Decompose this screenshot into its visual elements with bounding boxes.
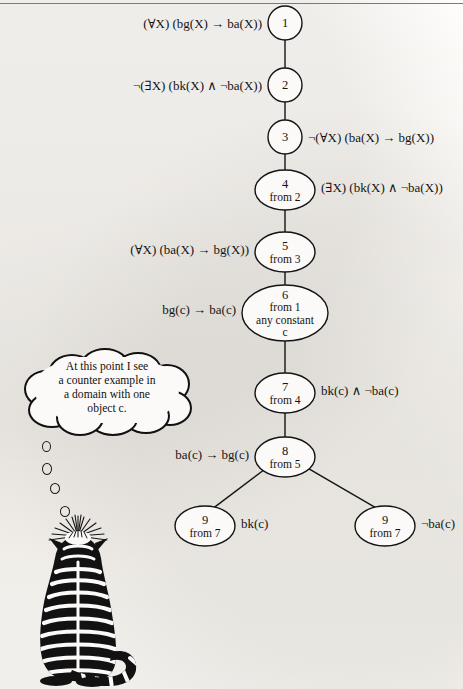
node-justification: from 7 [370, 527, 401, 539]
formula-label-n6: bg(c) → ba(c) [162, 302, 236, 317]
tree-node-2: 2 [268, 68, 302, 102]
tree-node-7: 7from 4 [255, 373, 315, 413]
thought-trail-dot [42, 463, 52, 475]
node-justification: from 2 [270, 191, 301, 203]
formula-label-n7: bk(c) ∧ ¬ba(c) [321, 383, 398, 398]
formula-label-n9a: bk(c) [241, 516, 268, 531]
node-number: 2 [282, 78, 288, 92]
bubble-line: a domain with one [64, 388, 150, 402]
thought-trail-dot [42, 441, 51, 452]
cat-illustration [16, 512, 141, 687]
formula-label-n8: ba(c) → bg(c) [175, 447, 249, 462]
node-number: 6 [282, 288, 288, 302]
node-number: 8 [282, 444, 288, 458]
tree-node-4: 4from 2 [255, 170, 315, 210]
node-number: 4 [282, 177, 289, 191]
formula-label-n2: ¬(∃X) (bk(X) ∧ ¬ba(X)) [133, 78, 262, 93]
node-justification: from 5 [270, 458, 301, 470]
tree-edge [214, 466, 269, 508]
figure-page: 1234from 25from 36from 1any constantc7fr… [0, 0, 463, 689]
tree-node-1: 1 [268, 6, 302, 40]
formula-label-n4: (∃X) (bk(X) ∧ ¬ba(X)) [321, 180, 443, 195]
formula-label-n1: (∀X) (bg(X) → ba(X)) [143, 16, 262, 31]
node-justification: from 7 [190, 527, 221, 539]
formula-label-n3: ¬(∀X) (ba(X) → bg(X)) [308, 130, 434, 145]
tree-edge [302, 465, 376, 508]
tree-node-8: 8from 5 [255, 437, 315, 477]
tree-node-6: 6from 1any constantc [242, 285, 328, 341]
node-number: 1 [282, 16, 288, 30]
node-number: 5 [282, 239, 288, 253]
thought-trail-dot [50, 483, 60, 494]
node-number: 7 [282, 380, 288, 394]
bubble-line: object c. [87, 402, 126, 416]
tree-node-9: 9from 7 [355, 506, 415, 546]
tree-node-5: 5from 3 [255, 232, 315, 272]
thought-bubble-text: At this point I see a counter example in… [22, 348, 192, 428]
node-number: 3 [282, 130, 288, 144]
bubble-line: a counter example in [59, 374, 156, 388]
tree-node-9: 9from 7 [175, 506, 235, 546]
node-number: 9 [202, 513, 208, 527]
node-justification: from 4 [270, 394, 301, 406]
formula-label-n9b: ¬ba(c) [421, 516, 455, 531]
node-justification: from 1 [270, 301, 301, 313]
node-justification: any constant [256, 314, 315, 327]
node-justification: from 3 [270, 253, 301, 265]
formula-label-n5: (∀X) (ba(X) → bg(X)) [130, 242, 249, 257]
node-justification: c [282, 326, 287, 338]
node-number: 9 [382, 513, 388, 527]
tree-node-3: 3 [268, 120, 302, 154]
bubble-line: At this point I see [66, 360, 148, 374]
thought-bubble: At this point I see a counter example in… [22, 348, 192, 428]
